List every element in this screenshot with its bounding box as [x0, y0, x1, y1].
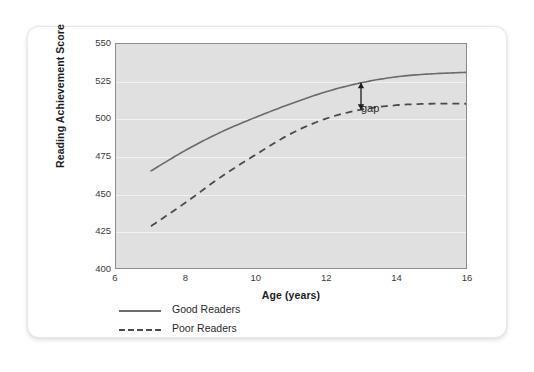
series-canvas: [116, 44, 466, 268]
y-tick-label: 475: [77, 151, 111, 161]
y-tick-label: 425: [77, 227, 111, 237]
y-axis-ticks: 550 525 500 475 450 425 400: [73, 43, 111, 269]
y-tick-label: 525: [77, 76, 111, 86]
y-tick-label: 500: [77, 114, 111, 124]
reading-achievement-chart: Reading Achievement Score 550 525 500 47…: [28, 27, 506, 337]
x-tick-label: 8: [170, 273, 200, 283]
series-line-poor-readers: [151, 104, 466, 227]
y-tick-label: 550: [77, 38, 111, 48]
x-tick-label: 10: [241, 273, 271, 283]
x-tick-label: 12: [311, 273, 341, 283]
chart-legend: Good Readers Poor Readers: [119, 302, 369, 340]
x-axis-ticks: 6 8 10 12 14 16: [115, 273, 467, 289]
legend-label: Poor Readers: [172, 323, 237, 334]
legend-label: Good Readers: [172, 304, 240, 315]
series-line-good-readers: [151, 72, 466, 171]
legend-item-poor-readers: Poor Readers: [119, 321, 369, 340]
x-tick-label: 6: [100, 273, 130, 283]
y-axis-title: Reading Achievement Score: [54, 0, 66, 196]
y-tick-label: 450: [77, 189, 111, 199]
legend-swatch-solid-line-icon: [119, 310, 161, 312]
screenshot-root: Reading Achievement Score 550 525 500 47…: [0, 0, 534, 372]
figure-card: Reading Achievement Score 550 525 500 47…: [27, 26, 507, 338]
x-axis-title: Age (years): [115, 289, 467, 301]
gap-annotation-label: gap: [361, 103, 379, 114]
plot-area: [115, 43, 467, 269]
legend-swatch-dashed-line-icon: [119, 329, 161, 331]
x-tick-label: 14: [382, 273, 412, 283]
legend-item-good-readers: Good Readers: [119, 302, 369, 321]
x-tick-label: 16: [452, 273, 482, 283]
